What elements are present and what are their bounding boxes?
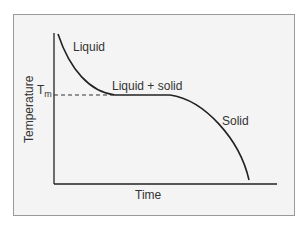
label-liquid-solid: Liquid + solid bbox=[112, 79, 182, 93]
tm-subscript: m bbox=[44, 89, 52, 99]
label-liquid: Liquid bbox=[73, 40, 105, 54]
x-axis-label: Time bbox=[135, 188, 161, 202]
label-tm: Tm bbox=[37, 83, 52, 99]
label-solid: Solid bbox=[222, 114, 249, 128]
y-axis-label: Temperature bbox=[22, 76, 36, 143]
cooling-curve bbox=[58, 34, 249, 180]
